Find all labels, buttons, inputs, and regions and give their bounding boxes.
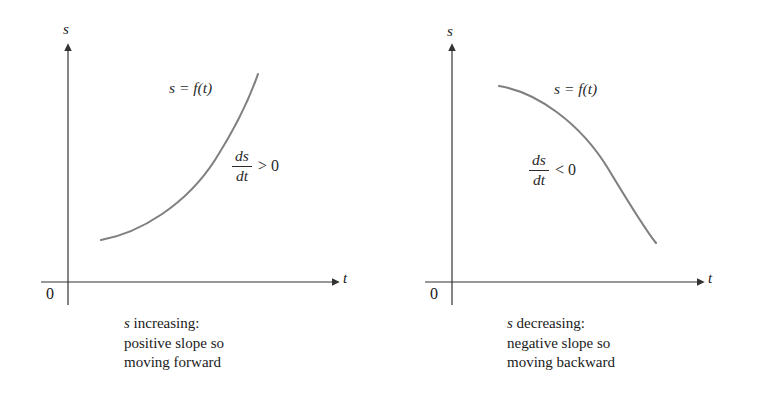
origin-label: 0 [430,286,438,302]
caption-line-1: s increasing: [124,314,224,334]
caption-line-3: moving backward [507,353,615,373]
caption-decreasing: s decreasing: negative slope so moving b… [507,314,615,373]
caption-line-2: negative slope so [507,334,615,354]
derivative-denominator: dt [531,171,547,189]
panel-increasing: s t 0 s = f(t) ds dt > 0 s increasing: p… [0,0,384,401]
x-axis-label: t [343,271,347,286]
caption-increasing: s increasing: positive slope so moving f… [124,314,224,373]
curve-equation-label: s = f(t) [554,81,597,97]
derivative-numerator: ds [233,148,251,166]
y-axis-label: s [447,24,453,39]
x-axis-label: t [708,271,712,286]
y-axis-label: s [63,22,69,37]
derivative-numerator: ds [530,152,548,170]
caption-line-1: s decreasing: [507,314,615,334]
derivative-fraction: ds dt [529,152,549,188]
derivative-fraction: ds dt [232,148,252,184]
derivative-inequality: ds dt > 0 [232,148,279,184]
derivative-relation: > 0 [258,157,279,175]
derivative-denominator: dt [234,167,250,185]
origin-label: 0 [46,286,54,302]
caption-line-3: moving forward [124,353,224,373]
panel-decreasing: s t 0 s = f(t) ds dt < 0 s decreasing: n… [384,0,767,401]
curve-equation-label: s = f(t) [169,80,212,96]
curve-decreasing [499,86,656,243]
caption-line-2: positive slope so [124,334,224,354]
figure-root: s t 0 s = f(t) ds dt > 0 s increasing: p… [0,0,767,401]
derivative-relation: < 0 [555,161,576,179]
derivative-inequality: ds dt < 0 [529,152,576,188]
